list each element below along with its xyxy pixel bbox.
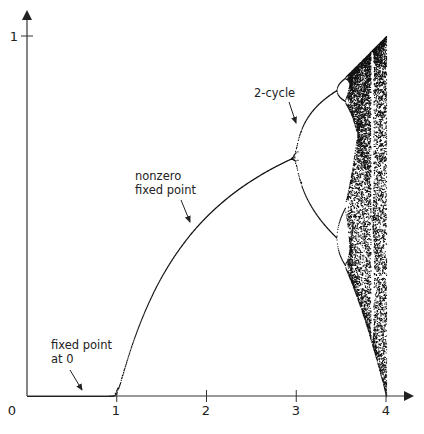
x-axis-arrow-icon (404, 391, 414, 401)
x-tick-label-4: 4 (382, 403, 390, 418)
annotation-fixed-point-zero: fixed point at 0 (51, 338, 113, 390)
x-tick-label-3: 3 (292, 403, 300, 418)
y-tick-label-1: 1 (10, 29, 18, 44)
x-tick-label-1: 1 (112, 403, 120, 418)
annotation-arrow-icon (181, 200, 190, 222)
annotation-nonzero-fixed-point: nonzero fixed point (135, 169, 197, 222)
annotation-text: fixed point (135, 183, 197, 197)
bifurcation-chart: 0 1 2 3 4 1 fixed point at 0 nonzero fix… (0, 0, 424, 434)
annotation-2-cycle: 2-cycle (254, 86, 296, 123)
annotation-text: fixed point (51, 338, 113, 352)
annotation-text: at 0 (51, 352, 74, 366)
origin-label: 0 (8, 403, 16, 418)
x-tick-label-2: 2 (202, 403, 210, 418)
y-axis-arrow-icon (22, 10, 32, 20)
annotation-arrow-icon (289, 102, 296, 123)
annotation-text: nonzero (135, 169, 181, 183)
annotation-text: 2-cycle (254, 86, 295, 100)
annotation-arrow-icon (70, 370, 82, 390)
